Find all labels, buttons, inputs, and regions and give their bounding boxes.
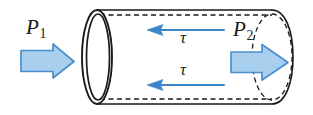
pressure-arrow-p1: [21, 44, 74, 78]
label-p2: P2: [233, 19, 253, 40]
label-p2-subscript: 2: [246, 28, 253, 43]
pressure-arrow-p2-shape: [231, 45, 288, 81]
shear-arrow-top-head: [147, 25, 163, 36]
label-tau-top: τ: [180, 29, 186, 46]
shear-arrow-bottom: [147, 80, 224, 91]
pipe-shear-diagram: P1 P2 τ τ: [0, 0, 313, 115]
label-p1-subscript: 1: [39, 26, 46, 41]
label-p1-symbol: P: [26, 15, 39, 39]
label-p1: P1: [26, 17, 46, 38]
pressure-arrow-p1-shape: [21, 44, 74, 78]
pressure-arrow-p2: [231, 45, 288, 81]
diagram-canvas: [0, 0, 313, 115]
cylinder-left-inner-ellipse: [87, 14, 110, 100]
shear-arrow-bottom-head: [147, 80, 163, 91]
label-tau-bottom: τ: [180, 61, 186, 78]
label-p2-symbol: P: [233, 17, 246, 41]
